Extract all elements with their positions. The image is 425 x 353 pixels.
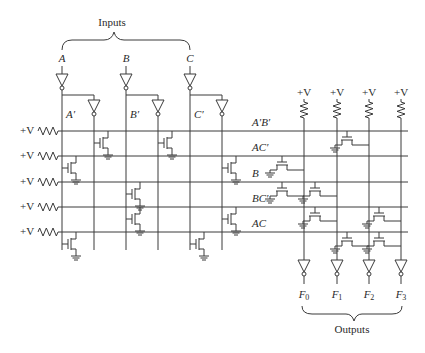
input-inverter-icon — [56, 74, 68, 86]
second-inverter-icon — [216, 100, 228, 112]
output-pullup-resistor-icon — [397, 102, 405, 118]
output-inverter-icon — [331, 260, 343, 272]
pla-circuit-diagram: AA′BB′CC′+VA′B′+VAC′+VB+VBC′+VAC+VF0+VF1… — [0, 0, 425, 353]
complement-label-c: C′ — [194, 108, 204, 120]
output-inverter-icon — [298, 260, 310, 272]
row-pullup-resistor-icon — [38, 203, 58, 211]
row-pullup-resistor-icon — [38, 127, 58, 135]
supply-label: +V — [20, 200, 34, 212]
supply-label: +V — [20, 149, 34, 161]
second-inverter-icon — [88, 100, 100, 112]
input-inverter-icon — [184, 74, 196, 86]
product-term-label-4: AC — [251, 217, 267, 229]
product-term-label-2: B — [252, 167, 259, 179]
outputs-brace — [302, 306, 402, 321]
row-pullup-resistor-icon — [38, 228, 58, 236]
output-label-f1: F1 — [331, 288, 343, 302]
output-label-f2: F2 — [363, 288, 375, 302]
output-inverter-icon — [395, 260, 407, 272]
input-label-a: A — [58, 52, 66, 64]
output-supply-label: +V — [394, 86, 408, 98]
output-pullup-resistor-icon — [365, 102, 373, 118]
output-inverter-icon — [363, 260, 375, 272]
inputs-brace — [62, 32, 190, 50]
complement-label-b: B′ — [130, 108, 140, 120]
output-label-f0: F0 — [298, 288, 310, 302]
row-pullup-resistor-icon — [38, 152, 58, 160]
supply-label: +V — [20, 225, 34, 237]
product-term-label-3: BC′ — [252, 192, 269, 204]
product-term-label-0: A′B′ — [251, 116, 271, 128]
output-pullup-resistor-icon — [333, 102, 341, 118]
input-label-b: B — [123, 52, 130, 64]
outputs-label: Outputs — [335, 323, 370, 335]
complement-label-a: A′ — [65, 108, 76, 120]
input-label-c: C — [186, 52, 194, 64]
output-supply-label: +V — [330, 86, 344, 98]
supply-label: +V — [20, 124, 34, 136]
input-inverter-icon — [120, 74, 132, 86]
output-supply-label: +V — [362, 86, 376, 98]
product-term-label-1: AC′ — [251, 141, 269, 153]
output-supply-label: +V — [297, 86, 311, 98]
supply-label: +V — [20, 175, 34, 187]
second-inverter-icon — [152, 100, 164, 112]
circuit-svg: AA′BB′CC′+VA′B′+VAC′+VB+VBC′+VAC+VF0+VF1… — [0, 0, 425, 353]
output-pullup-resistor-icon — [300, 102, 308, 118]
inputs-label: Inputs — [98, 16, 126, 28]
output-label-f3: F3 — [395, 288, 407, 302]
row-pullup-resistor-icon — [38, 178, 58, 186]
